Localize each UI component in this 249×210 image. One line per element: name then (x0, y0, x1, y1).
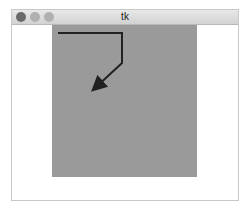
drawing-canvas[interactable] (52, 25, 197, 177)
arrow-path-drawing (52, 25, 197, 177)
title-bar[interactable]: tk (12, 10, 238, 25)
window-title: tk (12, 10, 238, 24)
app-window: tk (11, 9, 239, 201)
